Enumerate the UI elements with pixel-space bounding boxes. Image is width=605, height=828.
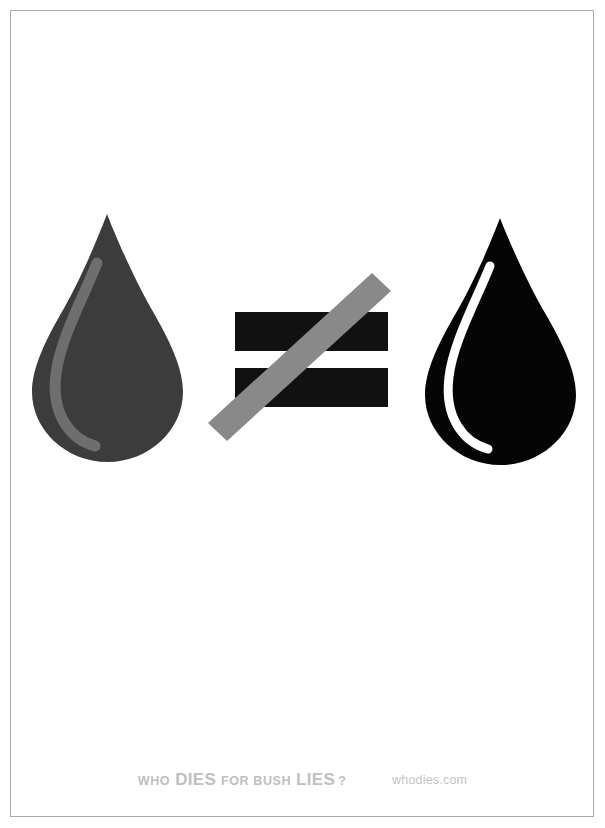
not-equal-slash — [208, 273, 391, 441]
tagline-word-dies: DIES — [175, 770, 216, 790]
not-equal-sign — [208, 273, 391, 441]
tagline-word-lies: LIES — [296, 770, 335, 790]
poster-artwork — [0, 0, 605, 828]
blood-drop-gray — [32, 214, 183, 462]
oil-drop-black — [425, 218, 576, 465]
poster-footer: WHO DIES FOR BUSH LIES ? whodies.com — [0, 765, 605, 795]
site-url-link[interactable]: whodies.com — [392, 773, 467, 787]
tagline-word-for-bush: FOR BUSH — [221, 774, 291, 788]
oil-drop-black-body — [425, 218, 576, 465]
tagline-question-mark: ? — [338, 773, 346, 788]
tagline-word-who: WHO — [138, 774, 170, 788]
poster-canvas: WHO DIES FOR BUSH LIES ? whodies.com — [0, 0, 605, 828]
blood-drop-gray-body — [32, 214, 183, 462]
tagline: WHO DIES FOR BUSH LIES ? — [138, 770, 346, 790]
